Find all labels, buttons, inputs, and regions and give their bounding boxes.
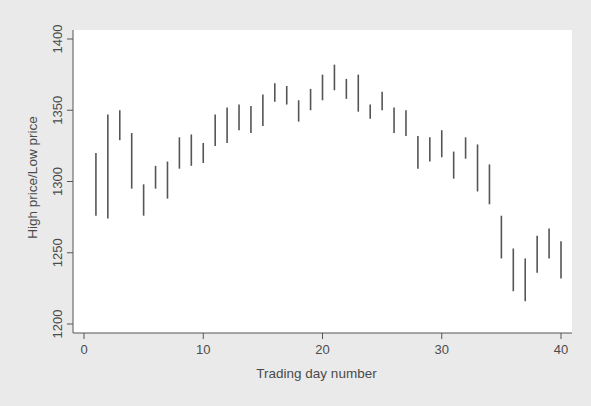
x-tick-label: 30 — [435, 342, 449, 357]
y-tick-label: 1300 — [50, 167, 65, 196]
x-tick-label: 0 — [80, 342, 87, 357]
y-tick-label: 1350 — [50, 96, 65, 125]
x-tick-label: 20 — [315, 342, 329, 357]
x-tick-label: 40 — [554, 342, 568, 357]
x-tick-label: 10 — [196, 342, 210, 357]
y-tick-label: 1250 — [50, 238, 65, 267]
range-bar-chart: 010203040 12001250130013501400 Trading d… — [0, 0, 591, 406]
chart-container: 010203040 12001250130013501400 Trading d… — [0, 0, 591, 406]
y-tick-label: 1200 — [50, 310, 65, 339]
y-tick-label: 1400 — [50, 25, 65, 54]
x-axis-title: Trading day number — [256, 366, 377, 381]
y-axis-title: High price/Low price — [25, 116, 40, 238]
